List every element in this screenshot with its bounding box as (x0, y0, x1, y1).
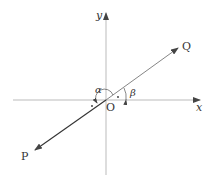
x-axis-label: x (196, 101, 203, 114)
right-dot (117, 96, 119, 98)
point-P-label: P (21, 150, 29, 163)
diagram: y x O Q P α β (0, 0, 212, 184)
line-PQ (35, 48, 178, 150)
origin-label: O (106, 101, 115, 114)
point-Q-label: Q (182, 40, 191, 53)
angle-beta-label: β (129, 87, 136, 98)
left-dot (91, 105, 93, 107)
angle-beta-arc (124, 88, 126, 100)
angle-alpha-label: α (95, 84, 102, 95)
y-axis-label: y (95, 9, 103, 22)
